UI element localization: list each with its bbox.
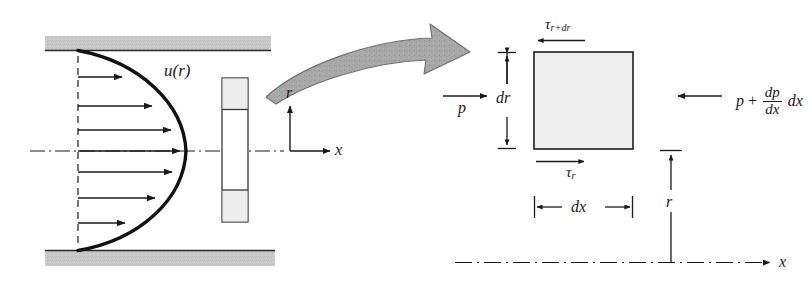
tau-subscript-top: r+dr xyxy=(550,22,570,33)
fraction-numerator: dp xyxy=(763,85,782,101)
pressure-left-label: p xyxy=(458,100,466,116)
annular-fluid-element xyxy=(222,78,248,222)
tau-subscript-bottom: r xyxy=(571,170,575,181)
pressure-right-operator: + xyxy=(747,93,758,109)
axis-label-x-right: x xyxy=(779,254,786,270)
fluid-element-box xyxy=(534,52,633,149)
pressure-right-base: p xyxy=(736,93,744,109)
fluid-mechanics-figure: u(r) r x τr+dr τr p p + dp dx dx dr dx r… xyxy=(0,0,810,282)
zoom-transition-arrow xyxy=(266,24,470,104)
pipe-wall-bottom xyxy=(45,251,275,267)
dimension-label-dr: dr xyxy=(496,90,510,106)
fraction-denominator: dx xyxy=(763,101,782,118)
figure-canvas xyxy=(0,0,810,282)
pressure-right-tail: dx xyxy=(788,93,803,109)
velocity-profile-label: u(r) xyxy=(164,62,190,79)
axes-left xyxy=(290,106,330,151)
axis-label-x-left: x xyxy=(335,142,342,158)
pressure-right-label: p + dp dx dx xyxy=(736,85,803,118)
axis-label-r-left: r xyxy=(286,85,292,101)
dimension-label-r: r xyxy=(666,194,672,210)
shear-stress-top-label: τr+dr xyxy=(545,17,571,33)
dimension-label-dx: dx xyxy=(571,199,586,215)
shear-stress-bottom-label: τr xyxy=(566,165,575,181)
pipe-wall-top xyxy=(45,36,271,51)
pressure-gradient-fraction: dp dx xyxy=(763,85,782,118)
